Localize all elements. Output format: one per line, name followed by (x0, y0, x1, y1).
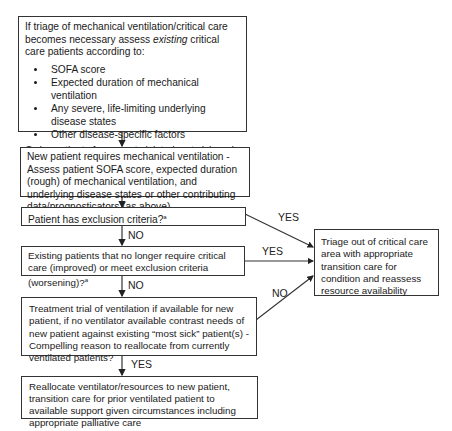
criteria-item: Expected duration of mechanical ventilat… (47, 76, 240, 102)
assess-intro-emphasis: existing (153, 34, 188, 45)
label-existing-yes: YES (262, 245, 283, 257)
label-trial-yes: YES (131, 358, 152, 370)
triage-out-text: Triage out of critical care area with ap… (321, 236, 432, 297)
treatment-trial-text: Treatment trial of ventilation if availa… (29, 303, 249, 364)
existing-footnote: a (85, 277, 88, 283)
criteria-item: SOFA score (47, 63, 240, 76)
label-existing-no: NO (128, 279, 144, 291)
treatment-trial-box: Treatment trial of ventilation if availa… (21, 297, 257, 356)
exclusion-text: Patient has exclusion criteria? (28, 214, 163, 225)
exclusion-criteria-box: Patient has exclusion criteria?a (21, 207, 246, 226)
assess-intro: If triage of mechanical ventilation/crit… (25, 21, 240, 59)
label-exclusion-no: NO (128, 229, 144, 241)
criteria-item: Any severe, life-limiting underlying dis… (47, 102, 240, 128)
criteria-item: Other disease-specific factors (47, 128, 240, 141)
triage-out-box: Triage out of critical care area with ap… (314, 229, 439, 296)
label-exclusion-yes: YES (278, 211, 299, 223)
new-patient-box: New patient requires mechanical ventilat… (20, 147, 250, 197)
new-patient-text: New patient requires mechanical ventilat… (27, 151, 243, 214)
assess-existing-patients-box: If triage of mechanical ventilation/crit… (18, 16, 247, 132)
reallocate-text: Reallocate ventilator/resources to new p… (29, 381, 250, 429)
exclusion-footnote: a (163, 214, 166, 220)
reallocate-box: Reallocate ventilator/resources to new p… (21, 376, 258, 419)
label-trial-no: NO (272, 287, 288, 299)
criteria-list: SOFA score Expected duration of mechanic… (25, 63, 240, 141)
existing-patients-box: Existing patients that no longer require… (21, 246, 245, 276)
